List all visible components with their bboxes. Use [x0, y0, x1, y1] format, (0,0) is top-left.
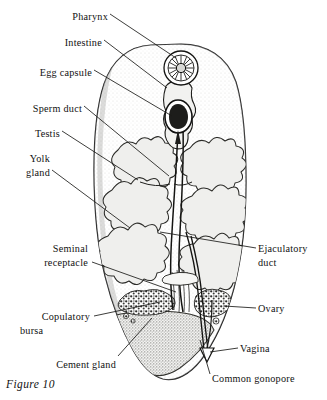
label-yolk-gland-line1: Yolk [0, 152, 50, 166]
label-vagina-text: Vagina [240, 343, 270, 354]
label-copulatory-bursa: Copulatory bursa [0, 310, 90, 337]
label-intestine: Intestine [0, 36, 102, 50]
label-seminal-receptacle-line1: Seminal [0, 242, 88, 256]
label-testis-text: Testis [35, 128, 60, 139]
cement-gland-stippled [112, 311, 214, 375]
label-ejaculatory-duct-line1: Ejaculatory [258, 242, 308, 256]
pharynx-radial-sucker [164, 51, 198, 85]
label-pharynx: Pharynx [0, 10, 108, 24]
label-ovary: Ovary [258, 302, 285, 316]
label-ejaculatory-duct: Ejaculatory duct [258, 242, 308, 269]
label-copulatory-bursa-line1: Copulatory [0, 310, 90, 324]
figure-caption: Figure 10 [6, 378, 55, 390]
figure-10-diagram: Pharynx Intestine Egg capsule Sperm duct… [0, 0, 327, 400]
label-copulatory-bursa-line2: bursa [0, 324, 90, 338]
label-common-gonopore-text: Common gonopore [212, 373, 295, 384]
label-intestine-text: Intestine [65, 37, 102, 48]
label-ovary-text: Ovary [258, 303, 285, 314]
label-cement-gland-text: Cement gland [56, 359, 116, 370]
label-cement-gland: Cement gland [0, 358, 116, 372]
label-yolk-gland-line2: gland [0, 166, 50, 180]
label-sperm-duct-text: Sperm duct [33, 103, 82, 114]
label-egg-capsule-text: Egg capsule [40, 67, 92, 78]
label-pharynx-text: Pharynx [72, 11, 108, 22]
label-seminal-receptacle-line2: receptacle [0, 256, 88, 270]
label-ejaculatory-duct-line2: duct [258, 256, 308, 270]
label-yolk-gland: Yolk gland [0, 152, 50, 179]
label-seminal-receptacle: Seminal receptacle [0, 242, 88, 269]
label-sperm-duct: Sperm duct [0, 102, 82, 116]
anatomical-illustration [0, 0, 327, 400]
label-vagina: Vagina [240, 342, 270, 356]
label-egg-capsule: Egg capsule [0, 66, 92, 80]
label-common-gonopore: Common gonopore [212, 372, 295, 386]
label-testis: Testis [0, 127, 60, 141]
